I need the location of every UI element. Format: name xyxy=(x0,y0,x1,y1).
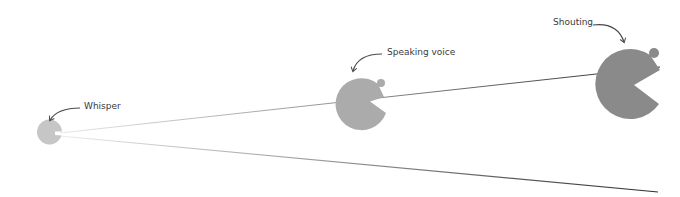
shouting-label: Shouting xyxy=(553,17,593,27)
volume-diagram: Whisper Speaking voice Shouting xyxy=(0,0,680,197)
diagram-canvas xyxy=(0,0,680,197)
shouting-head-icon xyxy=(595,48,660,119)
speaking-arrow-icon xyxy=(353,54,382,71)
cone-lower-line xyxy=(60,136,658,192)
speaking-voice-label: Speaking voice xyxy=(387,47,455,57)
whisper-head-icon xyxy=(37,119,62,144)
speaking-head-icon xyxy=(336,78,386,130)
shouting-arrow-icon xyxy=(593,25,624,42)
whisper-arrow-icon xyxy=(50,108,80,120)
whisper-label: Whisper xyxy=(84,101,121,111)
